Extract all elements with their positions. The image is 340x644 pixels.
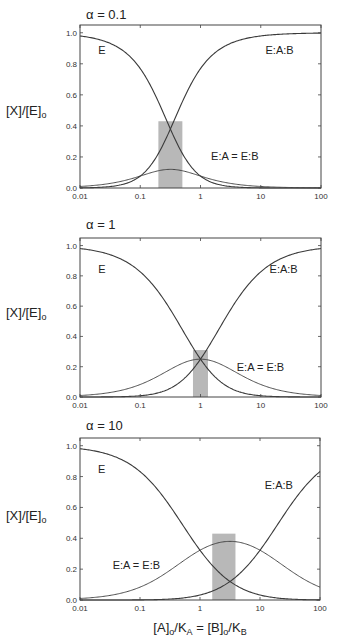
curve-label: E bbox=[98, 44, 105, 56]
x-axis-label: [A]o/KA = [B]o/KB bbox=[153, 620, 246, 637]
x-tick-label: 1 bbox=[198, 192, 203, 201]
y-tick-label: 0.8 bbox=[66, 60, 78, 69]
curve-label: E:A = E:B bbox=[237, 361, 284, 373]
y-axis-label: [X]/[E]o bbox=[6, 508, 46, 525]
y-tick-label: 1.0 bbox=[66, 242, 78, 251]
y-tick-label: 0.4 bbox=[66, 534, 78, 543]
panel-title: α = 1 bbox=[86, 217, 116, 232]
y-tick-label: 0.0 bbox=[66, 393, 78, 402]
x-tick-label: 10 bbox=[256, 192, 265, 201]
curve-label: E bbox=[98, 463, 105, 475]
x-tick-label: 100 bbox=[314, 401, 328, 410]
y-tick-label: 0.2 bbox=[66, 153, 78, 162]
y-tick-label: 0.2 bbox=[66, 565, 78, 574]
panel-alpha-0.1: α = 0.1 0.010.11101000.00.20.40.60.81.0 … bbox=[6, 7, 328, 201]
y-tick-label: 0.4 bbox=[66, 122, 78, 131]
curve-label: E:A = E:B bbox=[211, 150, 258, 162]
x-tick-label: 0.1 bbox=[135, 192, 147, 201]
y-tick-label: 0.6 bbox=[66, 302, 78, 311]
x-tick-label: 0.1 bbox=[134, 604, 146, 613]
y-axis-label: [X]/[E]o bbox=[6, 103, 46, 120]
curve-label: E:A = E:B bbox=[113, 559, 160, 571]
y-tick-label: 0.0 bbox=[66, 596, 78, 605]
curve-label: E:A:B bbox=[266, 44, 294, 56]
y-tick-label: 0.2 bbox=[66, 363, 78, 372]
panel-alpha-10: α = 10 0.010.11101000.00.20.40.60.81.0 E… bbox=[6, 418, 327, 613]
y-tick-label: 0.6 bbox=[66, 91, 78, 100]
y-tick-label: 0.4 bbox=[66, 332, 78, 341]
x-tick-label: 0.01 bbox=[72, 604, 88, 613]
curve-e bbox=[80, 36, 321, 188]
y-tick-label: 0.0 bbox=[66, 184, 78, 193]
y-tick-label: 1.0 bbox=[66, 29, 78, 38]
y-axis-label: [X]/[E]o bbox=[6, 305, 46, 322]
x-tick-label: 1 bbox=[198, 604, 203, 613]
x-tick-label: 100 bbox=[313, 604, 327, 613]
x-tick-label: 0.01 bbox=[72, 401, 88, 410]
figure: α = 0.1 0.010.11101000.00.20.40.60.81.0 … bbox=[0, 0, 340, 644]
x-tick-label: 10 bbox=[256, 401, 265, 410]
y-tick-label: 0.6 bbox=[66, 503, 78, 512]
x-tick-label: 0.1 bbox=[135, 401, 147, 410]
panel-title: α = 0.1 bbox=[86, 7, 126, 22]
panel-title: α = 10 bbox=[86, 418, 123, 433]
x-tick-label: 0.01 bbox=[72, 192, 88, 201]
panel-alpha-1: α = 1 0.010.11101000.00.20.40.60.81.0 EE… bbox=[6, 217, 328, 410]
curve-label: E:A:B bbox=[270, 263, 298, 275]
curve-label: E bbox=[98, 263, 105, 275]
curve-label: E:A:B bbox=[265, 479, 293, 491]
x-tick-label: 10 bbox=[256, 604, 265, 613]
shaded-region bbox=[193, 350, 208, 397]
curve-e bbox=[80, 449, 320, 600]
y-tick-label: 1.0 bbox=[66, 442, 78, 451]
plot-frame bbox=[80, 438, 320, 600]
shaded-region bbox=[158, 121, 182, 188]
x-tick-label: 1 bbox=[198, 401, 203, 410]
y-tick-label: 0.8 bbox=[66, 473, 78, 482]
y-tick-label: 0.8 bbox=[66, 272, 78, 281]
x-tick-label: 100 bbox=[314, 192, 328, 201]
